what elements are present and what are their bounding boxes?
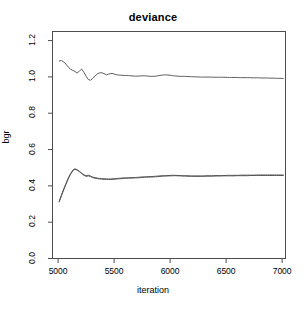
- series-line-lower-trace-b: [59, 169, 283, 201]
- plot-area: [0, 0, 306, 311]
- series-group: [59, 61, 283, 202]
- series-line-upper-trace: [59, 61, 283, 81]
- chart-figure: deviance bgr iteration 0.00.20.40.60.81.…: [0, 0, 306, 311]
- axes-group: [48, 32, 286, 264]
- series-line-lower-trace-a: [59, 169, 283, 202]
- plot-frame: [53, 32, 286, 259]
